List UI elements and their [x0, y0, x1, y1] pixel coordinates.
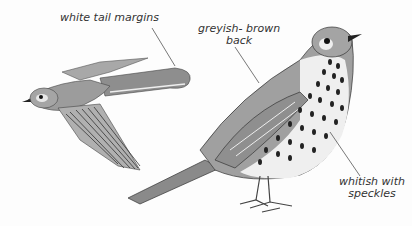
flying-bird	[22, 58, 190, 170]
label-back-line2: back	[198, 35, 280, 47]
label-white-tail-margins: white tail margins	[60, 12, 159, 24]
label-belly-line2: speckles	[339, 188, 405, 200]
perched-bird	[128, 27, 362, 212]
label-greyish-brown-back: greyish- brown back	[198, 23, 280, 47]
bird-illustration: white tail margins greyish- brown back w…	[0, 0, 412, 226]
label-whitish-with-speckles: whitish with speckles	[339, 176, 405, 200]
